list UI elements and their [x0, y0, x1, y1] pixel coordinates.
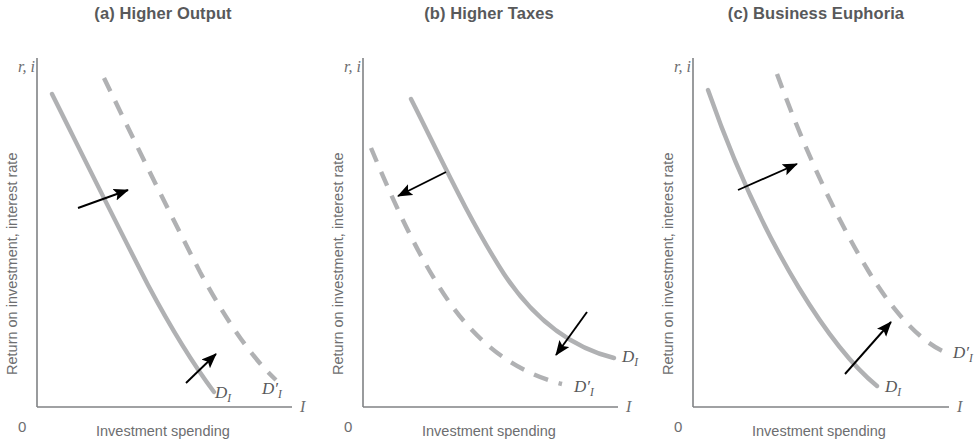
panel-a-label-shifted: D′I	[261, 379, 283, 400]
investment-demand-shift-figure: (a) Higher Output	[0, 0, 979, 446]
panel-c-chart: DI D′I r, i I 0 Return on investment, in…	[653, 0, 979, 446]
panel-b-y-axis-variable: r, i	[344, 58, 361, 75]
panel-a-x-axis-label: Investment spending	[96, 423, 230, 439]
panel-c-x-axis-variable: I	[956, 398, 963, 415]
panel-c-y-axis-variable: r, i	[674, 58, 691, 75]
panel-b-shift-arrow-upper	[398, 172, 446, 196]
panel-a-curve-shifted	[104, 78, 276, 380]
panel-b-origin-label: 0	[344, 418, 352, 435]
panel-b-chart: DI D′I r, i I 0 Return on investment, in…	[326, 0, 652, 446]
panel-c-origin-label: 0	[674, 418, 682, 435]
panel-c-curve-original	[708, 90, 877, 386]
panel-b-y-axis-label: Return on investment, interest rate	[330, 153, 346, 375]
panel-a-x-axis-variable: I	[299, 398, 306, 415]
panel-b-label-original: DI	[621, 347, 639, 368]
panel-c-y-axis-label: Return on investment, interest rate	[660, 153, 676, 375]
panel-a-y-axis-variable: r, i	[18, 58, 35, 75]
panel-a-chart: DI D′I r, i I 0 Return on investment, in…	[0, 0, 326, 446]
panel-higher-taxes: (b) Higher Taxes DI	[326, 0, 652, 446]
panel-a-origin-label: 0	[18, 418, 26, 435]
panel-business-euphoria: (c) Business Euphoria DI	[653, 0, 979, 446]
panel-a-curve-original	[52, 94, 214, 392]
panel-c-axes	[693, 58, 949, 407]
panel-c-curve-shifted	[777, 74, 945, 352]
panel-c-shift-arrow-lower	[845, 322, 891, 374]
panel-b-axes	[363, 58, 618, 407]
panel-b-label-shifted: D′I	[573, 377, 595, 398]
panel-b-curve-original	[411, 99, 614, 358]
panel-a-label-original: DI	[214, 383, 232, 404]
panel-c-x-axis-label: Investment spending	[752, 423, 886, 439]
panel-b-curve-shifted	[371, 148, 562, 384]
panel-b-x-axis-variable: I	[625, 398, 632, 415]
panel-c-label-shifted: D′I	[952, 343, 974, 364]
panel-a-y-axis-label: Return on investment, interest rate	[4, 153, 20, 375]
panel-c-label-original: DI	[884, 377, 902, 398]
panel-b-x-axis-label: Investment spending	[422, 423, 556, 439]
panel-c-shift-arrow-upper	[738, 164, 797, 190]
panel-higher-output: (a) Higher Output	[0, 0, 326, 446]
